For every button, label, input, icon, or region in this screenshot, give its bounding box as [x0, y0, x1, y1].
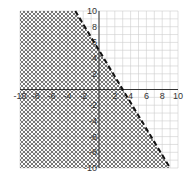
svg-text:-8: -8 — [89, 147, 97, 157]
svg-text:-4: -4 — [89, 116, 97, 126]
svg-text:-6: -6 — [89, 132, 97, 142]
svg-text:-2: -2 — [79, 91, 87, 101]
svg-text:10: 10 — [173, 91, 183, 101]
svg-text:2: 2 — [112, 91, 117, 101]
svg-text:4: 4 — [92, 53, 97, 63]
svg-text:-10: -10 — [13, 91, 26, 101]
svg-text:10: 10 — [87, 6, 97, 16]
svg-text:2: 2 — [92, 69, 97, 79]
svg-text:-4: -4 — [63, 91, 71, 101]
svg-text:8: 8 — [92, 22, 97, 32]
svg-text:6: 6 — [144, 91, 149, 101]
inequality-graph: -10-8-6-4-2246810108642-2-4-6-8-10 — [0, 0, 188, 181]
svg-text:-2: -2 — [89, 100, 97, 110]
svg-text:4: 4 — [128, 91, 133, 101]
svg-text:8: 8 — [160, 91, 165, 101]
svg-text:-8: -8 — [32, 91, 40, 101]
svg-text:-10: -10 — [84, 163, 97, 173]
svg-text:-6: -6 — [48, 91, 56, 101]
